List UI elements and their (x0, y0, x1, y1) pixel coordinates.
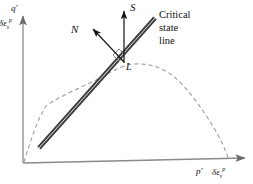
diagram-canvas (0, 0, 253, 184)
x-axis-secondary-label: δεvp (212, 167, 225, 180)
csl-label-line-2: state (159, 22, 191, 35)
point-l-label: L (126, 62, 132, 73)
csl-label-line-1: Critical (159, 9, 191, 22)
yield-locus (24, 64, 228, 162)
axis-group (23, 16, 245, 163)
x-axis-sup: p (222, 166, 225, 172)
x-axis-primary-label: p' (196, 167, 202, 176)
critical-state-line (39, 18, 155, 148)
critical-state-line-label: Critical state line (159, 9, 191, 47)
x-axis-sub: v (220, 173, 222, 179)
y-axis-sub: s (7, 24, 9, 30)
vector-n-label: N (71, 24, 78, 36)
csl-label-line-3: line (159, 35, 191, 48)
y-axis-sup: p (9, 17, 12, 23)
vector-n-arrow (93, 29, 124, 62)
y-axis-secondary-label: δεsp (0, 18, 12, 31)
vector-s-label: S (130, 2, 136, 14)
x-axis-line (23, 158, 245, 163)
y-axis-primary-label: q' (11, 4, 17, 13)
critical-state-diagram: q' δεsp p' δεvp S N L Critical state lin… (0, 0, 253, 184)
